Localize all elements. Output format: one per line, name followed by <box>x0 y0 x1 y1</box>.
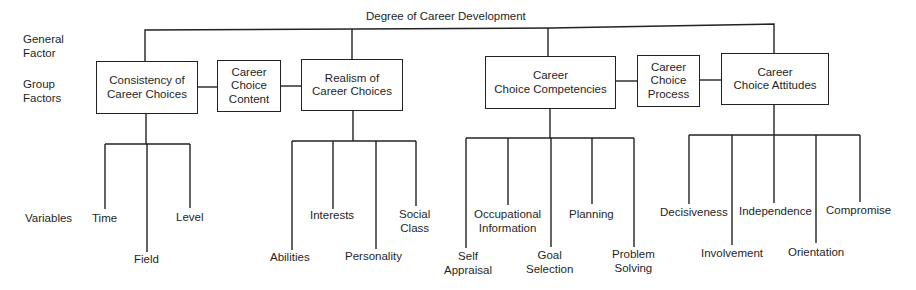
variable-orientation: Orientation <box>788 246 844 260</box>
box-career-choice-process: Career Choice Process <box>637 55 700 107</box>
level-label-general-factor: General Factor <box>23 33 64 60</box>
variable-social-class: Social Class <box>399 208 430 235</box>
variable-independence: Independence <box>739 205 812 219</box>
variable-time: Time <box>92 212 117 226</box>
variable-problem-solving: Problem Solving <box>612 248 655 275</box>
variable-planning: Planning <box>569 208 614 222</box>
variable-involvement: Involvement <box>701 247 763 261</box>
variable-occupational-information: Occupational Information <box>474 208 541 235</box>
variable-level: Level <box>176 211 204 225</box>
box-realism-of-career-choices: Realism of Career Choices <box>301 59 403 111</box>
box-career-choice-competencies: Career Choice Competencies <box>485 56 616 109</box>
variable-goal-selection: Goal Selection <box>526 249 573 276</box>
box-label: Career Choice Competencies <box>494 69 607 96</box>
level-label-group-factors: Group Factors <box>23 78 61 105</box>
box-consistency-of-career-choices: Consistency of Career Choices <box>96 61 198 114</box>
variable-interests: Interests <box>310 209 354 223</box>
variable-decisiveness: Decisiveness <box>660 206 728 220</box>
variable-field: Field <box>134 253 159 267</box>
box-label: Realism of Career Choices <box>312 72 392 99</box>
connector-lines <box>0 0 916 290</box>
variable-abilities: Abilities <box>270 251 310 265</box>
variable-compromise: Compromise <box>826 204 891 218</box>
box-label: Career Choice Process <box>648 61 690 102</box>
box-career-choice-content: Career Choice Content <box>217 60 281 112</box>
level-label-variables: Variables <box>25 212 72 226</box>
box-label: Consistency of Career Choices <box>107 74 187 101</box>
box-career-choice-attitudes: Career Choice Attitudes <box>721 53 829 105</box>
variable-personality: Personality <box>345 250 402 264</box>
variable-self-appraisal: Self Appraisal <box>444 250 492 277</box>
box-label: Career Choice Content <box>229 66 269 107</box>
diagram-title: Degree of Career Development <box>366 10 526 24</box>
box-label: Career Choice Attitudes <box>733 66 816 93</box>
